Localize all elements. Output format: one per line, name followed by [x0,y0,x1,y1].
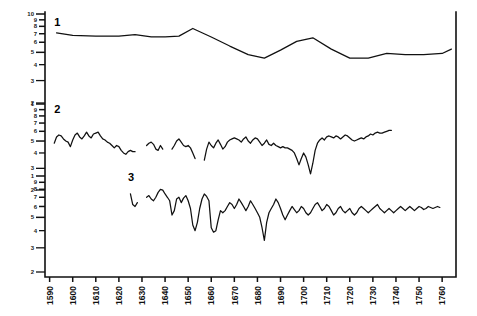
series-3-curve-segment [147,189,440,240]
y-axis-tick-label: 5 [31,49,35,55]
x-axis-tick-label: 1620 [114,286,124,305]
x-axis-tick-label: 1760 [437,286,447,305]
y-axis-tick-label: 6 [34,39,38,45]
y-axis-tick-label: 4 [34,228,38,234]
x-axis-tick-label: 1660 [206,286,216,305]
y-axis-tick-label: 7 [34,194,38,200]
series-3-curve-segment [130,194,137,207]
series-1-curve [57,28,452,58]
y-axis-tick-label: 7 [34,120,38,126]
series-2-label: 2 [54,103,60,115]
y-axis-tick-label: 5 [31,138,35,144]
x-axis-tick-label: 1710 [322,286,332,305]
x-axis-tick-label: 1680 [253,286,263,305]
y-axis-tick-label: 6 [34,204,38,210]
x-axis-tick-label: 1670 [230,286,240,305]
y-axis-tick-label: 6 [34,128,38,134]
x-axis-tick-label: 1750 [414,286,424,305]
y-axis-tick-label: 9 [34,107,38,113]
y-axis-tick-label: 8 [34,23,38,29]
y-axis-tick-label: 3 [31,165,35,171]
log-scale-time-series-chart: 1098765432198765432198765432159016001610… [0,0,477,316]
y-axis-tick-label: 4 [34,62,38,68]
series-2-curve-segment [54,132,135,154]
x-axis-tick-label: 1740 [391,286,401,305]
y-axis-tick-label: 5 [31,214,35,220]
x-axis-tick-label: 1700 [299,286,309,305]
y-axis-tick-label: 9 [34,179,38,185]
x-axis-tick-label: 1730 [368,286,378,305]
y-axis-tick-label: 3 [31,245,35,251]
series-2-curve-segment [204,130,391,174]
x-axis-tick-label: 1610 [91,286,101,305]
series-2-curve-segment [172,139,195,159]
x-axis-tick-label: 1640 [160,286,170,305]
y-axis-tick-label: 8 [34,113,38,119]
y-axis-tick-label: 2 [31,269,35,275]
y-axis-tick-label: 9 [34,17,38,23]
x-axis-tick-label: 1650 [183,286,193,305]
x-axis-tick-label: 1630 [137,286,147,305]
x-axis-tick-label: 1720 [345,286,355,305]
axis-frame [45,12,456,277]
series-2-curve-segment [147,142,163,150]
y-axis-tick-label: 4 [34,150,38,156]
x-axis-tick-label: 1600 [68,286,78,305]
chart-figure: 1098765432198765432198765432159016001610… [0,0,477,316]
y-axis-tick-label: 3 [31,78,35,84]
series-3-label: 3 [128,171,134,183]
y-axis-tick-label: 1 [31,173,35,179]
x-axis-tick-label: 1690 [276,286,286,305]
series-1-label: 1 [54,16,60,28]
y-axis-tick-label: 7 [34,31,38,37]
x-axis-tick-label: 1590 [45,286,55,305]
